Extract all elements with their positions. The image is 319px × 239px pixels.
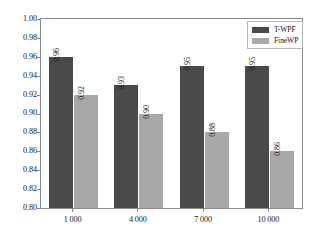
legend-item-label: T-WPF (274, 26, 296, 34)
y-axis-tick-mark (37, 170, 40, 171)
x-axis: 1 0004 0007 00010 000 (40, 209, 303, 235)
y-axis-tick-mark (37, 114, 40, 115)
bar-finewp-4000: 0.90 (139, 114, 163, 209)
y-axis-tick-mark (37, 76, 40, 77)
legend-item-label: FineWP (274, 37, 298, 45)
x-axis-tick-mark (268, 209, 269, 212)
x-axis-tick: 1 000 (64, 209, 82, 224)
bar-finewp-7000: 0.88 (205, 132, 229, 208)
y-axis-tick-mark (37, 57, 40, 58)
x-axis-tick-mark (203, 209, 204, 212)
x-axis-tick-label: 10 000 (257, 216, 279, 224)
bar-t-wpf-10000: 0.95 (245, 66, 269, 208)
x-axis-tick: 10 000 (257, 209, 279, 224)
bar-chart-figure: 1.000.980.960.940.920.900.880.860.840.82… (0, 0, 319, 239)
y-axis-tick-mark (37, 19, 40, 20)
bar-value-label: 0.95 (184, 57, 192, 71)
y-axis-tick-mark (37, 189, 40, 190)
x-axis-tick: 7 000 (194, 209, 212, 224)
legend-swatch-icon (252, 27, 269, 33)
bar-t-wpf-1000: 0.96 (49, 57, 73, 208)
bar-finewp-1000: 0.92 (74, 95, 98, 208)
bar-value-label: 0.86 (274, 143, 282, 157)
bar-t-wpf-4000: 0.93 (114, 85, 138, 208)
y-axis-tick-mark (37, 38, 40, 39)
legend-item[interactable]: FineWP (252, 36, 298, 45)
x-axis-tick-label: 1 000 (64, 216, 82, 224)
bar-value-label: 0.88 (209, 124, 217, 138)
legend-item[interactable]: T-WPF (252, 25, 298, 34)
x-axis-tick-label: 4 000 (129, 216, 147, 224)
bar-value-label: 0.93 (118, 76, 126, 90)
bar-value-label: 0.96 (53, 48, 61, 62)
bar-t-wpf-7000: 0.95 (180, 66, 204, 208)
bar-value-label: 0.92 (78, 86, 86, 100)
x-axis-tick: 4 000 (129, 209, 147, 224)
bar-value-label: 0.90 (143, 105, 151, 119)
x-axis-tick-label: 7 000 (194, 216, 212, 224)
x-axis-tick-mark (72, 209, 73, 212)
bar-value-label: 0.95 (249, 57, 257, 71)
y-axis: 1.000.980.960.940.920.900.880.860.840.82… (0, 18, 40, 209)
legend-swatch-icon (252, 38, 269, 44)
chart-legend: T-WPFFineWP (247, 21, 303, 49)
x-axis-tick-mark (137, 209, 138, 212)
bar-finewp-10000: 0.86 (270, 151, 294, 208)
y-axis-tick-mark (37, 132, 40, 133)
y-axis-tick-mark (37, 151, 40, 152)
y-axis-tick-mark (37, 95, 40, 96)
